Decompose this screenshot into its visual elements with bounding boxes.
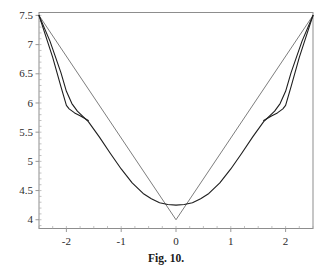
y-tick-label: 5 [28, 155, 34, 167]
y-tick-label: 7 [28, 38, 34, 50]
y-tick-label: 7.5 [19, 9, 33, 21]
figure-plot: 44.555.566.577.5 -2-1012 Fig. 10. [0, 0, 333, 275]
x-tick-label: 1 [228, 235, 234, 247]
figure-caption: Fig. 10. [148, 252, 184, 265]
x-tick-label: 2 [283, 235, 289, 247]
x-tick-label: 0 [173, 235, 179, 247]
x-tick-label: -2 [62, 235, 71, 247]
y-tick-label: 6.5 [19, 67, 33, 79]
x-tick-label: -1 [117, 235, 126, 247]
figure-page: 44.555.566.577.5 -2-1012 Fig. 10. [0, 0, 333, 275]
y-tick-label: 4.5 [19, 184, 33, 196]
y-tick-label: 4 [28, 213, 34, 225]
y-tick-label: 5.5 [19, 126, 33, 138]
y-tick-label: 6 [28, 97, 34, 109]
